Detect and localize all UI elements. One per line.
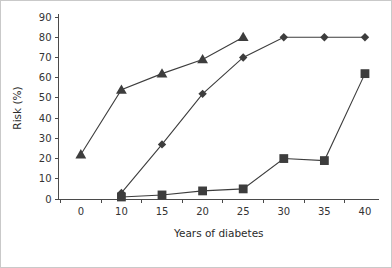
- x-tick-label: 20: [196, 206, 209, 217]
- data-point-triangle: [197, 54, 208, 63]
- data-point-square: [361, 69, 370, 78]
- x-tick-label: 15: [156, 206, 169, 217]
- data-point-diamond: [320, 33, 328, 41]
- y-axis-title: Risk (%): [11, 86, 23, 129]
- data-point-diamond: [361, 33, 369, 41]
- y-tick-label: 40: [39, 113, 52, 124]
- series-line-square: [121, 74, 365, 197]
- x-axis-title: Years of diabetes: [173, 227, 264, 239]
- series-square: [117, 69, 369, 201]
- data-point-triangle: [238, 32, 249, 41]
- series-diamond: [117, 33, 369, 197]
- data-point-triangle: [116, 84, 127, 93]
- y-tick-label: 50: [39, 92, 52, 103]
- x-axis-tick-labels: 010152025303540: [78, 206, 372, 217]
- y-axis-tick-labels: 0102030405060708090: [39, 12, 52, 205]
- data-point-square: [239, 184, 248, 193]
- y-tick-label: 20: [39, 153, 52, 164]
- y-tick-label: 30: [39, 133, 52, 144]
- y-tick-label: 90: [39, 12, 52, 23]
- data-point-triangle: [75, 149, 86, 158]
- x-tick-label: 35: [318, 206, 331, 217]
- y-tick-label: 0: [45, 194, 51, 205]
- series-triangle: [75, 32, 248, 159]
- data-point-square: [198, 187, 207, 196]
- x-tick-label: 10: [115, 206, 128, 217]
- x-tick-label: 0: [78, 206, 84, 217]
- series-line-triangle: [81, 37, 243, 154]
- x-tick-label: 25: [237, 206, 250, 217]
- data-point-square: [320, 156, 329, 165]
- y-tick-label: 70: [39, 52, 52, 63]
- y-axis-tick-marks: [55, 17, 59, 199]
- x-tick-label: 30: [277, 206, 290, 217]
- y-tick-label: 60: [39, 72, 52, 83]
- data-point-square: [158, 191, 167, 200]
- y-tick-label: 80: [39, 32, 52, 43]
- x-tick-label: 40: [359, 206, 372, 217]
- x-axis-tick-marks: [61, 199, 345, 203]
- data-point-diamond: [280, 33, 288, 41]
- risk-vs-years-line-chart: 0102030405060708090 010152025303540 Risk…: [1, 1, 392, 268]
- data-point-square: [117, 193, 126, 202]
- data-series-layer: [75, 32, 369, 202]
- data-point-square: [279, 154, 288, 163]
- y-tick-label: 10: [39, 173, 52, 184]
- chart-figure: 0102030405060708090 010152025303540 Risk…: [0, 0, 392, 268]
